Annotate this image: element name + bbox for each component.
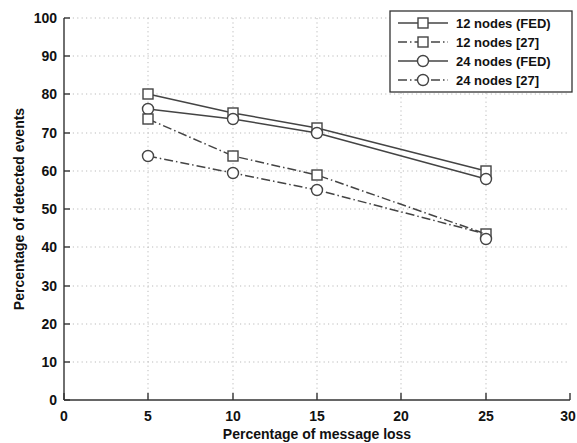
x-tick-label-10: 10 xyxy=(225,408,241,424)
series-marker-point xyxy=(312,170,322,180)
series-marker-point xyxy=(143,114,153,124)
legend-marker-circle xyxy=(418,56,429,67)
x-tick-label-0: 0 xyxy=(60,408,68,424)
y-tick-label-10: 10 xyxy=(41,354,57,370)
y-tick-label-50: 50 xyxy=(41,201,57,217)
y-tick-label-80: 80 xyxy=(41,86,57,102)
y-tick-label-30: 30 xyxy=(41,278,57,294)
x-tick-label-20: 20 xyxy=(393,408,409,424)
y-tick-label-60: 60 xyxy=(41,163,57,179)
legend-label: 24 nodes (FED) xyxy=(456,54,551,69)
legend-item-24-nodes-fed[interactable]: 24 nodes (FED) xyxy=(398,54,551,69)
series-marker-point xyxy=(228,151,238,161)
series-marker-point xyxy=(143,89,153,99)
y-tick-label-100: 100 xyxy=(34,10,58,26)
legend-label: 12 nodes (FED) xyxy=(456,16,551,31)
series-marker-point xyxy=(481,174,492,185)
y-axis-title: Percentage of detected events xyxy=(11,108,27,311)
legend-label: 24 nodes [27] xyxy=(456,73,539,88)
series-marker-point xyxy=(312,128,323,139)
series-marker-point xyxy=(143,104,154,115)
legend-label: 12 nodes [27] xyxy=(456,35,539,50)
chart-figure: 100 90 80 70 60 50 40 30 20 10 0 0 5 10 … xyxy=(0,0,577,443)
series-marker-point xyxy=(228,168,239,179)
x-tick-label-30: 30 xyxy=(560,408,576,424)
y-tick-label-70: 70 xyxy=(41,125,57,141)
x-tick-label-15: 15 xyxy=(309,408,325,424)
y-tick-label-40: 40 xyxy=(41,239,57,255)
series-marker-point xyxy=(228,114,239,125)
x-tick-label-25: 25 xyxy=(478,408,494,424)
series-marker-point xyxy=(143,151,154,162)
y-tick-label-90: 90 xyxy=(41,48,57,64)
legend: 12 nodes (FED) 12 nodes [27] 24 nodes (F… xyxy=(390,11,572,92)
y-tick-label-20: 20 xyxy=(41,316,57,332)
series-marker-point xyxy=(481,234,492,245)
legend-marker-square xyxy=(418,18,428,28)
y-tick-label-0: 0 xyxy=(49,392,57,408)
x-tick-label-5: 5 xyxy=(144,408,152,424)
legend-marker-square xyxy=(418,37,428,47)
series-marker-point xyxy=(312,185,323,196)
x-axis-title: Percentage of message loss xyxy=(223,426,412,442)
legend-marker-circle xyxy=(418,75,429,86)
